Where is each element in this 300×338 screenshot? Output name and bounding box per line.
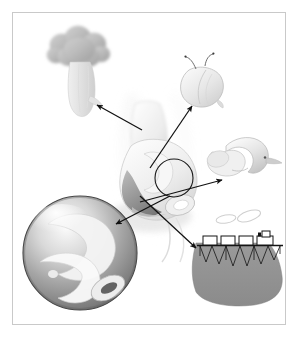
part-label-train: Locomotive with three cars on a latticed… <box>0 0 1 1</box>
figure-caption <box>0 0 1 1</box>
figure-frame <box>12 12 286 325</box>
part-label-broccoli: Lobed cauliflower-like body on a taperin… <box>0 0 1 1</box>
part-label-seed: Rounded seed or pod shape with two thin … <box>0 0 1 1</box>
figure-root: Exploded anatomical illustration with ma… <box>0 0 300 338</box>
part-label-sphere: Large glossy sphere containing curved fo… <box>0 0 1 1</box>
part-label-hook: Curved hook or saddle shaped body with s… <box>0 0 1 1</box>
figure-title: Exploded anatomical illustration with ma… <box>0 0 1 1</box>
